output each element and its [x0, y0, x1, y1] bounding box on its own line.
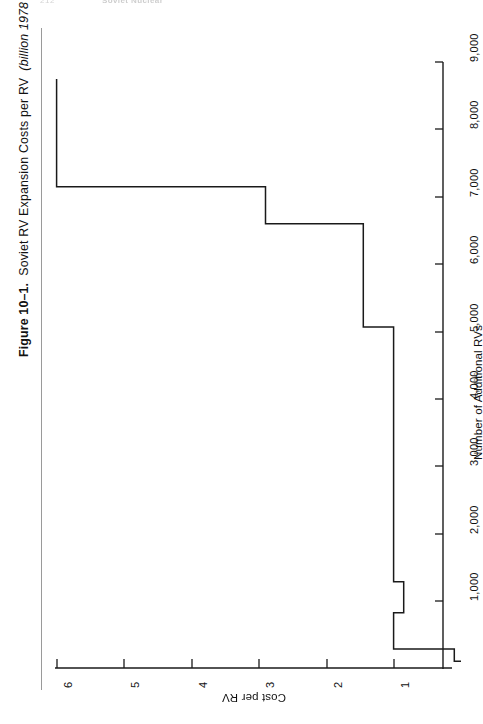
ytick-label-3: 3 — [264, 682, 276, 688]
xtick-label-7000: 7,000 — [468, 168, 480, 197]
xtick-label-6000: 6,000 — [468, 235, 480, 264]
ytick-label-4: 4 — [197, 682, 209, 688]
x-axis-title: Number of Additional RVs — [472, 325, 483, 460]
xtick-label-8000: 8,000 — [468, 100, 480, 129]
xtick-label-1000: 1,000 — [468, 572, 480, 601]
chart-plot-area: 9,000 8,000 7,000 6,000 5,000 4,000 3,00… — [0, 0, 483, 724]
y-axis-title: Cost per RV — [222, 692, 286, 704]
x-axis — [435, 62, 443, 669]
figure-page: 212 Soviet Nuclear Figure 10–1. Soviet R… — [0, 0, 483, 724]
xtick-label-9000: 9,000 — [468, 33, 480, 62]
ytick-label-2: 2 — [332, 682, 344, 688]
y-axis — [55, 659, 452, 668]
x-axis-ticks — [435, 62, 443, 601]
chart-canvas — [0, 0, 483, 724]
ytick-label-1: 1 — [399, 682, 411, 688]
y-axis-ticks — [57, 659, 394, 668]
ytick-label-6: 6 — [62, 682, 74, 688]
cost-step-curve — [57, 79, 461, 661]
ytick-label-5: 5 — [129, 682, 141, 688]
xtick-label-2000: 2,000 — [468, 505, 480, 534]
